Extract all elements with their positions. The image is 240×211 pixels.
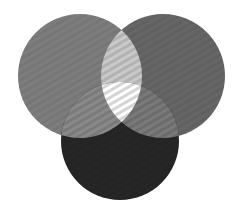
texture-overlay (18, 14, 225, 200)
venn-diagram (0, 0, 240, 211)
